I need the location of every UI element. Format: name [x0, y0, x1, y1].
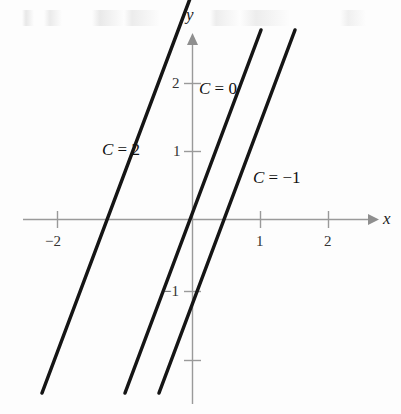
annotation-c-equals-2: C = 2 — [102, 141, 140, 158]
y-tick-label--1: −1 — [163, 284, 179, 299]
figure-container: −2 1 2 2 1 −1 y x C = 2 C = 0 C = −1 — [0, 0, 401, 414]
annotation-eq-0: = — [215, 79, 225, 98]
annotation-val--1: −1 — [282, 168, 300, 187]
annotation-c-var-0: C — [199, 79, 210, 98]
annotation-eq-2: = — [118, 140, 128, 159]
plot-area — [0, 0, 401, 414]
annotation-c-equals-0: C = 0 — [199, 80, 237, 97]
x-tick-label--2: −2 — [45, 234, 61, 249]
annotation-c-var--1: C — [253, 168, 264, 187]
x-tick-label-2: 2 — [324, 234, 332, 249]
annotation-c-equals-minus-1: C = −1 — [253, 169, 301, 186]
annotation-c-var-2: C — [102, 140, 113, 159]
data-lines — [42, 0, 295, 393]
annotation-val-0: 0 — [228, 79, 237, 98]
y-tick-label-1: 1 — [173, 144, 181, 159]
x-axis — [23, 211, 379, 228]
x-tick-label-1: 1 — [256, 234, 264, 249]
line-c-2 — [42, 0, 194, 393]
y-axis-label: y — [186, 6, 194, 23]
annotation-val-2: 2 — [131, 140, 140, 159]
annotation-eq--1: = — [269, 168, 279, 187]
y-tick-label-2: 2 — [172, 76, 180, 91]
x-axis-label: x — [383, 210, 391, 227]
